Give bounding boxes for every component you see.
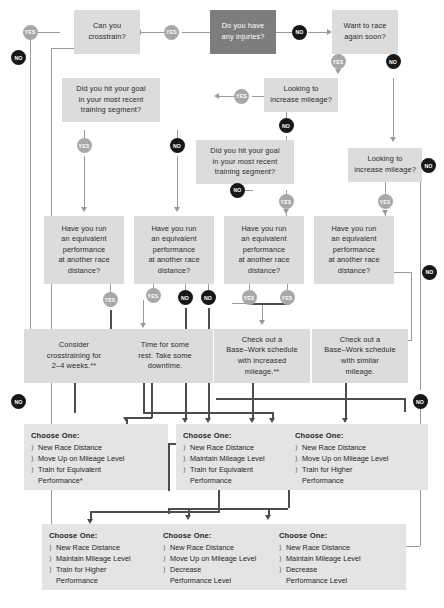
node-equivalent-performance-1[interactable]: Have you run an equivalent performance a…: [44, 216, 124, 284]
arrow-baseinc-card2: [249, 418, 255, 423]
badge-label: NO: [14, 399, 22, 405]
card-6-item-1[interactable]: ⟩New Race Distance: [279, 543, 400, 554]
badge-equiv-3-yes[interactable]: YES: [242, 290, 257, 305]
card-3-item-3-label: Train for Higher Performance: [302, 465, 352, 485]
card-5-item-3-label: Decrease Performance Level: [170, 565, 231, 585]
connector-injuries-no-2: [308, 32, 328, 33]
rail-bottom-mid-v2: [288, 490, 290, 508]
bullet-icon: ⟩: [163, 565, 166, 576]
node-consider-crosstraining-label: Consider crosstraining for 2–4 weeks.**: [47, 340, 101, 372]
card-5-item-1[interactable]: ⟩New Race Distance: [163, 543, 280, 554]
badge-goal-b-no[interactable]: NO: [230, 183, 245, 198]
connector-injuries-yes-2: [140, 32, 164, 33]
node-crosstrain[interactable]: Can you crosstrain?: [74, 10, 140, 54]
choose-one-card-6[interactable]: Choose One: ⟩New Race Distance ⟩Maintain…: [272, 524, 406, 590]
card-6-list: ⟩New Race Distance ⟩Maintain Mileage Lev…: [279, 543, 400, 587]
arrow-to-goal-a: [214, 93, 219, 99]
badge-mileage-b-yes[interactable]: YES: [378, 194, 393, 209]
arrow-to-mileage-b: [390, 137, 396, 142]
card-4-item-2[interactable]: ⟩Maintain Mileage Level: [49, 554, 166, 565]
node-injuries[interactable]: Do you have any injuries?: [210, 10, 276, 54]
badge-right-rail-no[interactable]: NO: [413, 394, 428, 409]
card-1-item-2[interactable]: ⟩Move Up on Mileage Level: [31, 454, 162, 465]
badge-label: YES: [282, 295, 293, 301]
rail-feedback-upper-v: [404, 398, 406, 412]
badge-injuries-yes[interactable]: YES: [164, 25, 179, 40]
card-6-item-1-label: New Race Distance: [286, 543, 350, 552]
card-5-list: ⟩New Race Distance ⟩Move Up on Mileage L…: [163, 543, 280, 587]
card-3-list: ⟩New Race Distance ⟩Move Up on Mileage L…: [295, 443, 422, 487]
badge-crosstrain-no[interactable]: NO: [11, 50, 26, 65]
node-time-for-rest[interactable]: Time for some rest. Take some downtime.: [117, 329, 213, 383]
badge-mileage-a-yes[interactable]: YES: [234, 89, 249, 104]
bullet-icon: ⟩: [183, 443, 186, 454]
badge-label: NO: [424, 163, 432, 169]
badge-crosstrain-yes[interactable]: YES: [23, 25, 38, 40]
badge-goal-b-yes[interactable]: YES: [279, 194, 294, 209]
badge-goal-a-no[interactable]: NO: [170, 138, 185, 153]
card-1-item-1[interactable]: ⟩New Race Distance: [31, 443, 162, 454]
node-injuries-label: Do you have any injuries?: [222, 21, 265, 42]
bullet-icon: ⟩: [49, 565, 52, 576]
node-equivalent-performance-3-label: Have you run an equivalent performance a…: [238, 224, 289, 277]
card-6-item-2[interactable]: ⟩Maintain Mileage Level: [279, 554, 400, 565]
choose-one-card-1[interactable]: Choose One: ⟩New Race Distance ⟩Move Up …: [24, 424, 168, 490]
badge-goal-a-yes[interactable]: YES: [77, 138, 92, 153]
node-hit-goal-a[interactable]: Did you hit your goal in your most recen…: [62, 78, 160, 122]
badge-injuries-no[interactable]: NO: [292, 25, 307, 40]
badge-equiv-2-yes[interactable]: YES: [146, 288, 161, 303]
node-base-work-similar[interactable]: Check out a Base–Work schedule with simi…: [312, 329, 408, 383]
card-1-list: ⟩New Race Distance ⟩Move Up on Mileage L…: [31, 443, 162, 487]
node-base-work-increased-label: Check out a Base–Work schedule with incr…: [226, 335, 298, 377]
choose-one-card-3[interactable]: Choose One: ⟩New Race Distance ⟩Move Up …: [288, 424, 428, 490]
rail-equiv4-no: [411, 272, 412, 340]
card-5-item-1-label: New Race Distance: [170, 543, 234, 552]
badge-race-soon-no[interactable]: NO: [386, 54, 401, 69]
node-increase-mileage-a[interactable]: Looking to increase mileage?: [264, 78, 338, 112]
card-4-item-1[interactable]: ⟩New Race Distance: [49, 543, 166, 554]
node-base-work-increased[interactable]: Check out a Base–Work schedule with incr…: [214, 329, 310, 383]
node-base-work-similar-label: Check out a Base–Work schedule with simi…: [324, 335, 396, 377]
badge-equiv-4-yes[interactable]: YES: [280, 290, 295, 305]
connector-mileagea-yes: [252, 96, 264, 97]
card-5-item-3[interactable]: ⟩Decrease Performance Level: [163, 565, 280, 587]
choose-one-card-5[interactable]: Choose One: ⟩New Race Distance ⟩Move Up …: [156, 524, 286, 590]
connector-mileagea-yes-2: [218, 96, 234, 97]
card-4-heading: Choose One:: [49, 530, 166, 541]
rail-card1-right: [168, 443, 170, 491]
badge-label: NO: [295, 29, 303, 35]
badge-equiv-1-yes[interactable]: YES: [103, 292, 118, 307]
badge-equiv-2-no[interactable]: NO: [178, 290, 193, 305]
badge-label: YES: [148, 293, 159, 299]
arrow-basesim-card3: [342, 418, 348, 423]
card-6-item-3[interactable]: ⟩Decrease Performance Level: [279, 565, 400, 587]
badge-left-rail-no[interactable]: NO: [11, 394, 26, 409]
rail-card5-stub: [188, 508, 190, 516]
badge-equiv-4-no[interactable]: NO: [422, 265, 437, 280]
connector-equiv4-no: [392, 272, 412, 273]
badge-mileage-b-no[interactable]: NO: [421, 158, 436, 173]
badge-race-soon-yes[interactable]: YES: [331, 54, 346, 69]
card-1-item-3[interactable]: ⟩Train for Equivalent Performance*: [31, 465, 162, 487]
node-hit-goal-b[interactable]: Did you hit your goal in your most recen…: [196, 140, 294, 184]
node-equivalent-performance-2[interactable]: Have you run an equivalent performance a…: [134, 216, 214, 284]
node-hit-goal-b-label: Did you hit your goal in your most recen…: [210, 146, 279, 178]
bullet-icon: ⟩: [279, 565, 282, 576]
card-3-item-2[interactable]: ⟩Move Up on Mileage Level: [295, 454, 422, 465]
card-4-item-3[interactable]: ⟩Train for Higher Performance: [49, 565, 166, 587]
node-increase-mileage-b[interactable]: Looking to increase mileage?: [348, 148, 422, 182]
choose-one-card-4[interactable]: Choose One: ⟩New Race Distance ⟩Maintain…: [42, 524, 172, 590]
card-3-item-1[interactable]: ⟩New Race Distance: [295, 443, 422, 454]
rail-card6-stub: [268, 508, 270, 516]
node-equivalent-performance-4[interactable]: Have you run an equivalent performance a…: [314, 216, 394, 284]
card-3-item-3[interactable]: ⟩Train for Higher Performance: [295, 465, 422, 487]
rail-card2-h: [90, 511, 220, 513]
node-race-again-soon[interactable]: Want to race again soon?: [332, 10, 398, 54]
badge-equiv-3-no[interactable]: NO: [201, 290, 216, 305]
flowchart-canvas: Do you have any injuries? Can you crosst…: [0, 0, 444, 608]
node-equivalent-performance-3[interactable]: Have you run an equivalent performance a…: [224, 216, 304, 284]
node-equivalent-performance-2-label: Have you run an equivalent performance a…: [148, 224, 199, 277]
node-consider-crosstraining[interactable]: Consider crosstraining for 2–4 weeks.**: [24, 329, 124, 383]
badge-mileage-a-no[interactable]: NO: [279, 118, 294, 133]
card-5-item-2[interactable]: ⟩Move Up on Mileage Level: [163, 554, 280, 565]
